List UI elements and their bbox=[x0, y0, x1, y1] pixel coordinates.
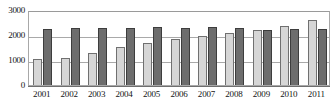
bar-dark-series-2008 bbox=[235, 28, 244, 85]
bar-group bbox=[198, 12, 217, 85]
bar-group bbox=[280, 12, 299, 85]
x-axis-tick-label: 2009 bbox=[248, 89, 274, 99]
x-axis: 2001200220032004200520062007200820092010… bbox=[28, 89, 330, 109]
bar-group bbox=[253, 12, 272, 85]
bar-dark-series-2010 bbox=[290, 29, 299, 85]
x-axis-tick-label: 2001 bbox=[29, 89, 55, 99]
bar-light-series-2001 bbox=[33, 59, 42, 85]
plot-area bbox=[28, 11, 330, 86]
bar-group bbox=[61, 12, 80, 85]
x-axis-tick-label: 2007 bbox=[193, 89, 219, 99]
bar-light-series-2002 bbox=[61, 58, 70, 86]
bar-group bbox=[308, 12, 327, 85]
y-axis: 0100020003000 bbox=[0, 0, 28, 111]
bar-light-series-2011 bbox=[308, 20, 317, 85]
bar-light-series-2003 bbox=[88, 53, 97, 85]
bar-group bbox=[88, 12, 107, 85]
bar-dark-series-2011 bbox=[318, 29, 327, 85]
bar-light-series-2007 bbox=[198, 36, 207, 85]
bar-light-series-2009 bbox=[253, 30, 262, 85]
bar-light-series-2006 bbox=[171, 39, 180, 85]
y-axis-tick-label: 1000 bbox=[8, 56, 25, 65]
bar-dark-series-2007 bbox=[208, 27, 217, 85]
x-axis-tick-label: 2011 bbox=[303, 89, 329, 99]
bar-dark-series-2006 bbox=[181, 28, 190, 86]
bar-light-series-2008 bbox=[225, 33, 234, 85]
bar-dark-series-2002 bbox=[71, 28, 80, 85]
bar-dark-series-2005 bbox=[153, 27, 162, 85]
x-axis-tick-label: 2006 bbox=[166, 89, 192, 99]
bar-group bbox=[33, 12, 52, 85]
bar-dark-series-2009 bbox=[263, 30, 272, 85]
bar-dark-series-2003 bbox=[98, 28, 107, 85]
x-axis-line bbox=[28, 86, 330, 87]
x-axis-tick-label: 2005 bbox=[139, 89, 165, 99]
bar-dark-series-2001 bbox=[43, 29, 52, 85]
bar-dark-series-2004 bbox=[126, 28, 135, 86]
x-axis-tick-label: 2004 bbox=[111, 89, 137, 99]
bar-light-series-2005 bbox=[143, 43, 152, 85]
x-axis-tick-label: 2010 bbox=[276, 89, 302, 99]
x-axis-tick-label: 2003 bbox=[84, 89, 110, 99]
x-axis-tick-label: 2002 bbox=[56, 89, 82, 99]
y-axis-tick-label: 3000 bbox=[8, 6, 25, 15]
bar-group bbox=[225, 12, 244, 85]
bar-light-series-2010 bbox=[280, 26, 289, 85]
bar-chart: 0100020003000 20012002200320042005200620… bbox=[0, 0, 336, 111]
bar-series-container bbox=[29, 12, 329, 85]
x-axis-tick-label: 2008 bbox=[221, 89, 247, 99]
bar-light-series-2004 bbox=[116, 47, 125, 86]
bar-group bbox=[171, 12, 190, 85]
y-axis-tick-label: 2000 bbox=[8, 31, 25, 40]
y-axis-tick-label: 0 bbox=[21, 81, 25, 90]
bar-group bbox=[116, 12, 135, 85]
bar-group bbox=[143, 12, 162, 85]
